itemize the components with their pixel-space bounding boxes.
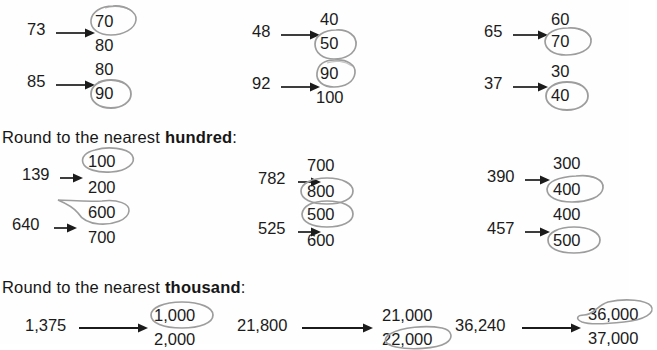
arrow-icon xyxy=(512,81,550,93)
heading-thousands-suffix: : xyxy=(241,278,246,296)
arrow-icon xyxy=(55,79,97,91)
option-bottom[interactable]: 200 xyxy=(88,178,116,197)
arrow-icon xyxy=(301,322,375,334)
problem-value: 139 xyxy=(22,165,50,184)
option-bottom[interactable]: 700 xyxy=(88,228,116,247)
option-bottom[interactable]: 22,000 xyxy=(382,330,432,349)
option-top[interactable]: 70 xyxy=(95,12,113,31)
option-bottom[interactable]: 37,000 xyxy=(588,329,638,348)
heading-hundreds: Round to the nearest hundred: xyxy=(2,128,237,147)
option-top[interactable]: 36,000 xyxy=(588,305,638,324)
option-bottom[interactable]: 50 xyxy=(320,34,338,53)
option-bottom[interactable]: 80 xyxy=(95,36,113,55)
problem-value: 36,240 xyxy=(455,316,505,335)
option-bottom[interactable]: 800 xyxy=(307,182,335,201)
option-top[interactable]: 21,000 xyxy=(382,306,432,325)
heading-thousands: Round to the nearest thousand: xyxy=(2,278,246,297)
arrow-icon xyxy=(78,322,150,334)
heading-hundreds-bold: hundred xyxy=(165,128,232,146)
option-bottom[interactable]: 400 xyxy=(553,180,581,199)
problem-value: 92 xyxy=(252,74,270,93)
option-top[interactable]: 500 xyxy=(307,205,335,224)
heading-hundreds-prefix: Round to the nearest xyxy=(2,128,165,146)
option-bottom[interactable]: 100 xyxy=(316,88,344,107)
option-bottom[interactable]: 40 xyxy=(551,86,569,105)
problem-value: 65 xyxy=(484,22,502,41)
problem-value: 21,800 xyxy=(237,316,287,335)
problem-value: 85 xyxy=(27,72,45,91)
problem-value: 525 xyxy=(258,219,286,238)
heading-thousands-bold: thousand xyxy=(165,278,241,296)
arrow-icon xyxy=(53,222,79,234)
option-top[interactable]: 90 xyxy=(320,64,338,83)
arrow-icon xyxy=(524,226,552,238)
option-bottom[interactable]: 70 xyxy=(551,32,569,51)
option-bottom[interactable]: 600 xyxy=(307,231,335,250)
option-top[interactable]: 700 xyxy=(307,156,335,175)
option-top[interactable]: 1,000 xyxy=(154,306,195,325)
arrow-icon xyxy=(59,172,85,184)
option-bottom[interactable]: 2,000 xyxy=(154,330,195,349)
option-top[interactable]: 30 xyxy=(551,62,569,81)
option-bottom[interactable]: 90 xyxy=(95,84,113,103)
problem-value: 1,375 xyxy=(25,316,66,335)
problem-value: 37 xyxy=(484,74,502,93)
problem-value: 640 xyxy=(12,215,40,234)
arrow-icon xyxy=(521,322,583,334)
problem-value: 457 xyxy=(487,219,515,238)
heading-thousands-prefix: Round to the nearest xyxy=(2,278,165,296)
option-top[interactable]: 60 xyxy=(551,10,569,29)
problem-value: 73 xyxy=(27,20,45,39)
option-top[interactable]: 400 xyxy=(553,205,581,224)
option-bottom[interactable]: 500 xyxy=(553,231,581,250)
arrow-icon xyxy=(280,29,322,41)
option-top[interactable]: 40 xyxy=(320,10,338,29)
arrow-icon xyxy=(524,174,552,186)
problem-value: 48 xyxy=(252,22,270,41)
problem-value: 782 xyxy=(258,169,286,188)
option-top[interactable]: 100 xyxy=(88,152,116,171)
arrow-icon xyxy=(55,27,97,39)
heading-hundreds-suffix: : xyxy=(232,128,237,146)
option-top[interactable]: 600 xyxy=(88,203,116,222)
arrow-icon xyxy=(512,29,550,41)
problem-value: 390 xyxy=(487,167,515,186)
option-top[interactable]: 300 xyxy=(553,154,581,173)
option-top[interactable]: 80 xyxy=(95,60,113,79)
